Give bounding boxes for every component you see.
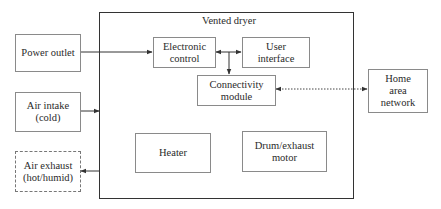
vented-dryer-label: Vented dryer [202, 15, 256, 26]
node-connectivity-module: Connectivity module [197, 75, 276, 106]
node-air-exhaust: Air exhaust (hot/humid) [15, 151, 81, 192]
node-home-area-network: Home area network [368, 69, 428, 113]
node-user-interface: User interface [242, 37, 310, 68]
node-air-intake: Air intake (cold) [15, 92, 81, 132]
node-heater: Heater [135, 133, 211, 173]
node-electronic-control: Electronic control [153, 37, 216, 68]
node-drum-exhaust-motor: Drum/exhaust motor [242, 131, 327, 172]
node-power-outlet: Power outlet [15, 34, 81, 72]
